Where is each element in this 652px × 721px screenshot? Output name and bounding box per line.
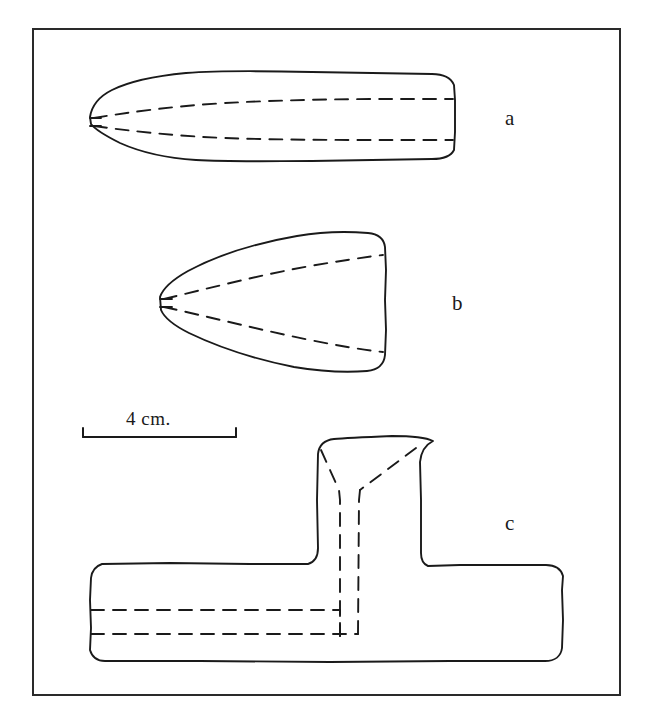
figure-b-group bbox=[160, 232, 386, 372]
figure-a-dashed-lower bbox=[94, 126, 453, 140]
figure-c-dashed-bevel-left bbox=[321, 450, 339, 490]
figure-c-group bbox=[90, 436, 563, 662]
figure-c-dashed-horizontal-upper bbox=[91, 610, 340, 636]
plate-drawing-canvas bbox=[0, 0, 652, 721]
figure-label-c: c bbox=[505, 513, 514, 534]
figure-b-dashed-upper bbox=[164, 255, 383, 299]
illustration-plate: a b c 4 cm. bbox=[0, 0, 652, 721]
figure-c-dashed-stem-left bbox=[339, 490, 340, 636]
figure-a-outline bbox=[90, 71, 455, 161]
figure-c-dashed-stem-right bbox=[358, 490, 360, 634]
figure-c-dashed-bevel-right bbox=[360, 448, 416, 490]
figure-b-outline bbox=[160, 232, 386, 372]
scale-bar-label: 4 cm. bbox=[126, 408, 171, 430]
figure-a-group bbox=[90, 71, 455, 161]
figure-label-a: a bbox=[505, 108, 514, 129]
figure-a-dashed-upper bbox=[94, 99, 453, 118]
figure-c-outline bbox=[90, 436, 563, 662]
figure-label-b: b bbox=[452, 293, 463, 314]
figure-b-dashed-lower bbox=[164, 307, 383, 352]
